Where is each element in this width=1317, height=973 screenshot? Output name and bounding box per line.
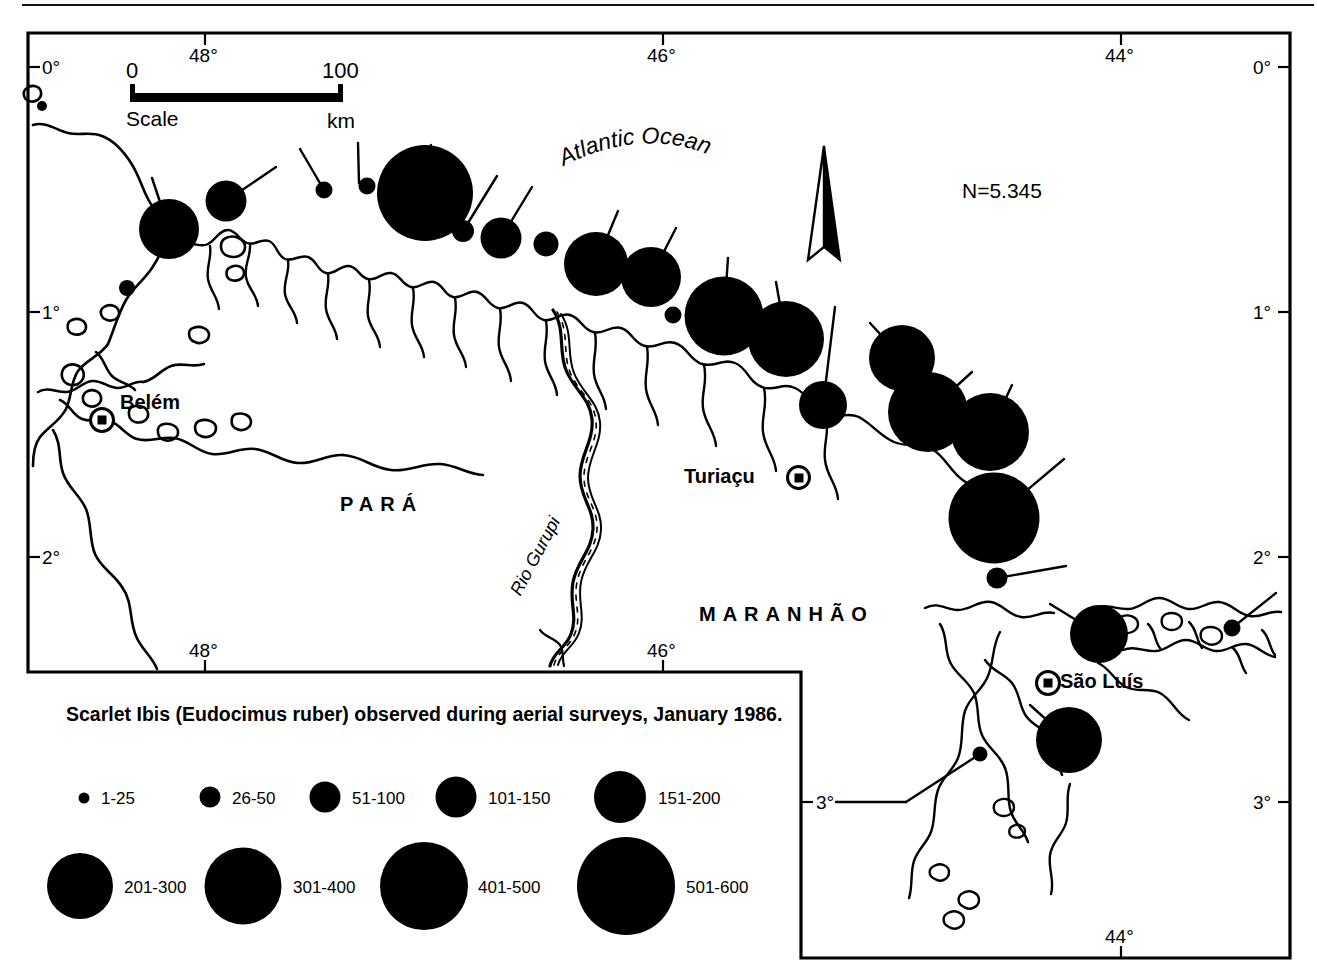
- count-circle: [452, 220, 474, 242]
- legend-dot: [594, 771, 646, 823]
- tick-label-right-3: 3°: [1253, 793, 1271, 812]
- count-circle: [1070, 605, 1128, 663]
- legend-dot: [79, 793, 90, 804]
- tick-label-right-0: 0°: [1253, 58, 1271, 77]
- scale-units: km: [327, 110, 355, 131]
- count-circle: [973, 747, 988, 762]
- legend-title: Scarlet Ibis (Eudocimus ruber) observed …: [66, 703, 782, 726]
- count-circle: [564, 232, 628, 296]
- sample-size-label: N=5.345: [962, 180, 1042, 201]
- city-label-belem: Belém: [120, 392, 180, 412]
- rio-gurupi: [540, 310, 601, 666]
- tick-label-bottom-44: 44°: [1105, 927, 1134, 946]
- map-frame: [28, 33, 1290, 958]
- tick-label-left-0: 0°: [42, 58, 60, 77]
- legend-label-51-100: 51-100: [352, 789, 405, 809]
- state-label-para: PARÁ: [340, 494, 423, 514]
- scale-start-label: 0: [126, 60, 138, 82]
- scale-bar: [130, 84, 343, 102]
- legend-label-1-25: 1-25: [101, 789, 135, 809]
- count-circle: [1224, 620, 1241, 637]
- scale-caption: Scale: [126, 108, 179, 129]
- legend-label-101-150: 101-150: [488, 789, 550, 809]
- legend-dot: [205, 848, 282, 925]
- map-vector-layer: Atlantic Ocean: [0, 0, 1317, 973]
- legend-dot: [380, 842, 468, 930]
- legend-label-401-500: 401-500: [478, 878, 540, 898]
- tick-label-left-2: 2°: [42, 548, 60, 567]
- legend-label-26-50: 26-50: [232, 789, 275, 809]
- legend-label-201-300: 201-300: [124, 878, 186, 898]
- city-symbol-sao-luis: [1035, 670, 1061, 696]
- tick-label-inner-3: 3°: [816, 793, 834, 812]
- legend-label-301-400: 301-400: [293, 878, 355, 898]
- city-symbol-belem: [89, 407, 115, 433]
- count-circle: [748, 301, 824, 377]
- tick-label-left-1: 1°: [42, 303, 60, 322]
- ocean-label: Atlantic Ocean: [552, 122, 715, 171]
- city-label-turiacu: Turiaçu: [684, 466, 755, 486]
- tick-label-top-48: 48°: [189, 46, 218, 65]
- tick-label-bottom-48: 48°: [189, 641, 218, 660]
- count-circle: [665, 307, 682, 324]
- tick-label-bottom-46: 46°: [647, 641, 676, 660]
- count-circle: [949, 473, 1040, 564]
- count-circle: [799, 381, 847, 429]
- graticule-ticks: [28, 33, 1290, 958]
- legend-label-501-600: 501-600: [686, 878, 748, 898]
- count-circle: [359, 178, 376, 195]
- count-circle: [987, 568, 1008, 589]
- count-circle: [621, 247, 681, 307]
- count-circle: [481, 218, 522, 259]
- tick-label-right-1: 1°: [1253, 303, 1271, 322]
- legend-dot: [47, 853, 113, 919]
- count-circle: [37, 101, 47, 111]
- count-circle: [534, 232, 559, 257]
- state-label-maranhao: MARANHÃO: [699, 604, 874, 624]
- count-circle: [119, 280, 135, 296]
- legend-dot: [577, 837, 675, 935]
- tick-label-top-46: 46°: [647, 46, 676, 65]
- legend-label-151-200: 151-200: [658, 789, 720, 809]
- scale-end-label: 100: [322, 60, 359, 82]
- figure-root: Atlantic Ocean 48° 46° 44° 48° 46° 44° 0…: [0, 0, 1317, 973]
- legend-dot: [310, 782, 341, 813]
- count-circle: [316, 182, 333, 199]
- city-label-sao-luis: São Luís: [1060, 671, 1143, 691]
- city-symbol-turiacu: [786, 465, 811, 490]
- legend-dot: [436, 777, 477, 818]
- count-circle: [951, 393, 1029, 471]
- count-circle: [139, 199, 199, 259]
- north-arrow-icon: [808, 146, 840, 260]
- count-circle: [206, 181, 247, 222]
- legend-dot: [200, 787, 221, 808]
- tick-label-right-2: 2°: [1253, 548, 1271, 567]
- count-circle: [1036, 707, 1102, 773]
- tick-label-top-44: 44°: [1105, 46, 1134, 65]
